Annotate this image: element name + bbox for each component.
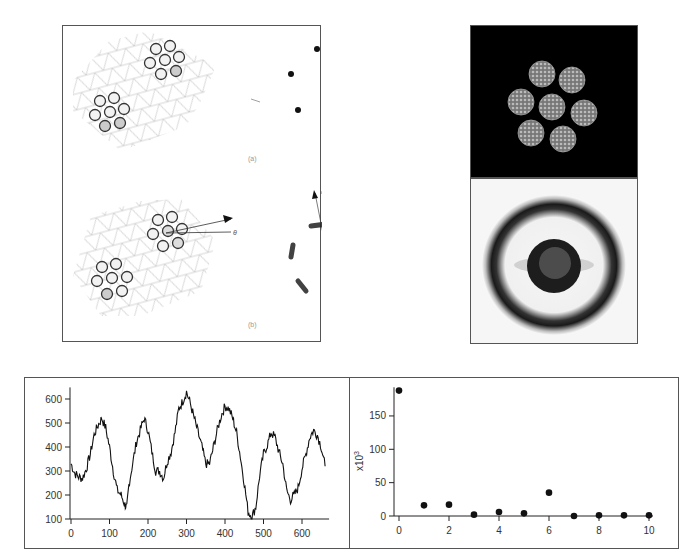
particle-cluster [508,61,597,152]
data-point [646,512,653,519]
y-tick-label: 50 [375,477,387,488]
data-point [471,511,478,518]
data-point [421,502,428,509]
lattice-b [73,199,216,316]
data-point [571,513,578,520]
psi-arrow-head-icon [312,190,318,199]
y-tick-label: 100 [369,444,386,455]
data-point [446,501,453,508]
scatter-chart: 050100150 0246810 x103 [350,378,678,548]
y-tick-label: 500 [45,418,62,429]
lattice-schematic-figure: (a) θ ψ (b) [62,25,321,342]
y-tick-label: 200 [45,490,62,501]
line-chart-panel: 100200300400500600 0100200300400500600 [24,377,350,549]
lattice-a [73,31,216,151]
x-tick-label: 8 [596,525,602,536]
x-tick-label: 0 [396,525,402,536]
y-tick-label: 600 [45,394,62,405]
diffraction-pattern-image [470,178,638,344]
lattice-schematic-svg: (a) θ ψ (b) [63,26,322,343]
psi-label: ψ [321,189,322,195]
x-tick-label: 500 [255,528,272,539]
tem-image [470,25,638,178]
x-tick-label: 200 [140,528,157,539]
y-axis-label: x103 [353,451,365,471]
theta-label: θ [233,229,237,236]
data-point [546,489,553,496]
x-tick-label: 600 [294,528,311,539]
y-tick-label: 300 [45,466,62,477]
diffraction-svg [471,179,637,343]
scatter-chart-panel: 050100150 0246810 x103 [349,377,679,549]
diffraction-spots-a [288,46,322,124]
arrow-head-icon [223,215,233,223]
y-tick-label: 100 [45,514,62,525]
panel-label-a: (a) [248,155,257,163]
data-point [521,510,528,517]
x-tick-label: 4 [496,525,502,536]
x-tick-label: 10 [643,525,655,536]
x-axis-left: 0100200300400500600 [68,519,329,539]
x-tick-label: 2 [446,525,452,536]
data-point [396,387,403,394]
x-tick-label: 100 [101,528,118,539]
panel-label-b: (b) [248,321,257,329]
data-point [596,512,603,519]
scatter-points [396,387,653,519]
x-tick-label: 300 [178,528,195,539]
data-point [496,509,503,516]
tem-svg [471,26,637,177]
y-tick-label: 150 [369,410,386,421]
y-axis-left: 100200300400500600 [45,387,70,524]
x-tick-label: 400 [217,528,234,539]
y-tick-label: 0 [380,511,386,522]
y-tick-label: 400 [45,442,62,453]
x-axis-right: 0246810 [394,516,655,536]
x-tick-label: 6 [546,525,552,536]
diffraction-arcs-b [291,224,322,297]
line-chart: 100200300400500600 0100200300400500600 [25,378,349,548]
y-axis-right: 050100150 [369,387,394,521]
data-point [621,512,628,519]
x-tick-label: 0 [68,528,74,539]
signal-line [71,391,325,519]
